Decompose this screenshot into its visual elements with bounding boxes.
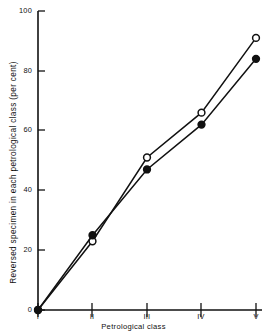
x-tick-label-iii: III — [135, 312, 159, 321]
data-point-filled-circle-series-IV — [198, 121, 205, 128]
y-axis-ticks — [38, 11, 45, 310]
x-tick-label-iv: IV — [189, 312, 213, 321]
chart-figure: 0 20 40 60 80 100 I II III IV V Reversed… — [0, 0, 267, 334]
series-line-open-circle-series — [38, 38, 256, 310]
y-axis-title: Reversed specimen in each petrological c… — [9, 33, 18, 313]
x-tick-label-ii: II — [80, 312, 104, 321]
series-line-filled-circle-series — [38, 59, 256, 310]
data-point-open-circle-series-V — [253, 35, 260, 42]
data-point-filled-circle-series-II — [89, 232, 96, 239]
data-point-filled-circle-series-V — [253, 55, 260, 62]
data-point-open-circle-series-IV — [198, 109, 205, 116]
chart-canvas — [0, 0, 267, 334]
x-tick-label-i: I — [26, 312, 50, 321]
series-layer — [35, 35, 260, 314]
x-axis-title: Petrological class — [0, 322, 267, 331]
y-tick-label-100: 100 — [8, 6, 32, 15]
data-point-filled-circle-series-III — [144, 166, 151, 173]
x-tick-label-v: V — [244, 312, 267, 321]
data-point-open-circle-series-III — [144, 154, 151, 161]
